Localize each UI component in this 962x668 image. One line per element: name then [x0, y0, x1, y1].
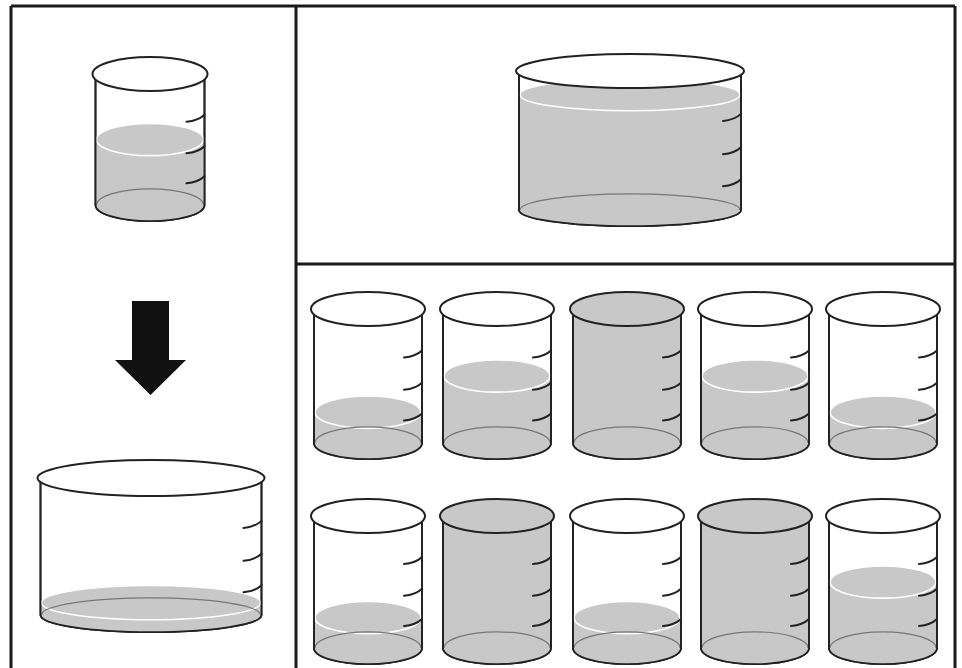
liquid-surface	[315, 396, 421, 428]
liquid	[444, 360, 550, 459]
liquid	[702, 360, 808, 459]
liquid	[444, 516, 550, 664]
option-beaker-9[interactable]	[698, 499, 812, 664]
liquid-surface	[444, 360, 550, 392]
liquid	[315, 601, 421, 664]
left-panel	[38, 57, 265, 632]
beaker-rim	[826, 292, 940, 326]
option-beaker-2[interactable]	[440, 292, 554, 459]
beaker-rim	[38, 460, 265, 496]
beaker-rim	[440, 499, 554, 533]
beaker-rim	[311, 499, 425, 533]
liquid	[520, 78, 740, 226]
liquid	[702, 516, 808, 664]
option-beaker-10[interactable]	[826, 499, 940, 664]
liquid-surface	[574, 601, 680, 633]
liquid-surface	[830, 566, 936, 598]
option-beaker-8[interactable]	[570, 499, 684, 664]
options-panel	[311, 292, 940, 664]
arrow-down-icon	[115, 301, 186, 395]
liquid	[97, 123, 204, 221]
liquid-surface	[315, 601, 421, 633]
top-right-panel	[516, 54, 744, 226]
beaker-rim	[698, 499, 812, 533]
beaker-rim	[311, 292, 425, 326]
result-wide-beaker	[38, 460, 265, 632]
option-beaker-4[interactable]	[698, 292, 812, 459]
option-beaker-1[interactable]	[311, 292, 425, 459]
liquid	[42, 586, 261, 633]
option-beaker-6[interactable]	[311, 499, 425, 664]
option-beaker-7[interactable]	[440, 499, 554, 664]
source-beaker	[93, 57, 208, 221]
figure-canvas	[0, 0, 962, 668]
liquid	[574, 309, 680, 459]
reference-wide-beaker	[516, 54, 744, 226]
liquid-surface	[97, 123, 204, 155]
beaker-rim	[93, 57, 208, 91]
liquid	[830, 396, 936, 459]
liquid	[830, 566, 936, 664]
beaker-puzzle-figure	[0, 0, 962, 668]
beaker-rim	[570, 499, 684, 533]
beaker-rim	[440, 292, 554, 326]
option-beaker-3[interactable]	[570, 292, 684, 459]
option-beaker-5[interactable]	[826, 292, 940, 459]
liquid-surface	[702, 360, 808, 392]
beaker-rim	[698, 292, 812, 326]
beaker-rim	[826, 499, 940, 533]
liquid	[574, 601, 680, 664]
beaker-rim	[516, 54, 744, 88]
liquid-surface	[830, 396, 936, 428]
beaker-rim	[570, 292, 684, 326]
liquid	[315, 396, 421, 459]
